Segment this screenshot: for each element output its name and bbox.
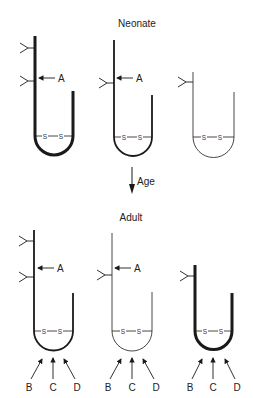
carbohydrate-icon xyxy=(180,271,195,281)
carbohydrate-icon xyxy=(178,77,193,87)
label-c: C xyxy=(209,382,216,393)
label-d: D xyxy=(152,382,159,393)
arrow-b-icon xyxy=(110,359,121,379)
disulfide-label: S xyxy=(138,134,143,141)
molecule-neonate-3 xyxy=(178,72,234,158)
disulfide-label: S xyxy=(219,328,224,335)
disulfide-label: S xyxy=(59,133,64,140)
label-d: D xyxy=(73,382,80,393)
disulfide-label: S xyxy=(202,134,207,141)
disulfide-label: S xyxy=(121,328,126,335)
carbohydrate-icon xyxy=(19,236,34,246)
molecule-adult-1 xyxy=(19,230,75,379)
label-b: B xyxy=(187,382,194,393)
label-d: D xyxy=(233,382,240,393)
label-c: C xyxy=(128,382,135,393)
age-arrow-icon xyxy=(129,167,135,194)
age-label: Age xyxy=(137,176,155,187)
carbohydrate-icon xyxy=(99,78,114,88)
label-c: C xyxy=(49,382,56,393)
label-a: A xyxy=(136,73,143,84)
carbohydrate-icon xyxy=(97,270,112,280)
disulfide-label: S xyxy=(137,328,142,335)
carbohydrate-icon xyxy=(20,76,35,86)
label-a: A xyxy=(57,263,64,274)
disulfide-label: S xyxy=(122,134,127,141)
label-a: A xyxy=(134,263,141,274)
molecule-adult-3 xyxy=(180,265,235,379)
label-b: B xyxy=(26,382,33,393)
carbohydrate-icon xyxy=(19,272,34,282)
carbohydrate-icon xyxy=(20,43,35,53)
label-b: B xyxy=(105,382,112,393)
arrow-d-icon xyxy=(143,359,154,379)
label-a: A xyxy=(58,73,65,84)
section-title-adult: Adult xyxy=(120,212,143,223)
arrow-b-icon xyxy=(31,359,42,379)
disulfide-label: S xyxy=(218,134,223,141)
disulfide-label: S xyxy=(43,133,48,140)
arrow-d-icon xyxy=(225,359,235,379)
disulfide-label: S xyxy=(58,328,63,335)
immunoglobulin-age-diagram: Neonate S S A S S A xyxy=(0,0,253,398)
arrow-d-icon xyxy=(64,359,75,379)
disulfide-label: S xyxy=(42,328,47,335)
molecule-adult-2 xyxy=(97,233,154,379)
disulfide-label: S xyxy=(203,328,208,335)
section-title-neonate: Neonate xyxy=(118,18,156,29)
arrow-b-icon xyxy=(192,359,202,379)
